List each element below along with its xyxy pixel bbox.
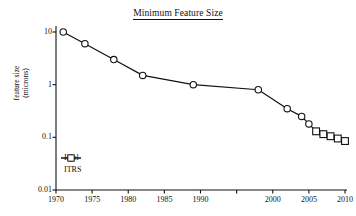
- x-tick-label: 1990: [184, 196, 218, 204]
- data-point-itrs: [342, 138, 349, 145]
- legend-item-itrs: ITRS: [60, 164, 81, 176]
- y-tick-label: 10: [14, 28, 52, 36]
- x-tick-label: 2000: [256, 196, 290, 204]
- x-tick-label: 1985: [147, 196, 181, 204]
- chart-figure: Minimum Feature Size feature size(micron…: [0, 0, 356, 216]
- x-tick-label: 2010: [328, 196, 356, 204]
- x-tick-label: 1975: [75, 196, 109, 204]
- data-point-intel: [255, 87, 261, 93]
- data-point-itrs: [313, 128, 320, 135]
- data-point-itrs: [327, 133, 334, 140]
- data-point-intel: [82, 40, 88, 46]
- data-point-intel: [140, 72, 146, 78]
- chart-legend: Intel ITRS: [60, 152, 81, 176]
- legend-marker-square-icon: [60, 152, 82, 164]
- data-point-intel: [306, 121, 312, 127]
- x-tick-label: 1980: [111, 196, 145, 204]
- data-point-intel: [60, 29, 66, 35]
- data-point-intel: [111, 56, 117, 62]
- data-point-itrs: [320, 131, 327, 138]
- data-point-intel: [284, 105, 290, 111]
- y-tick-label: 0.01: [14, 186, 52, 194]
- data-line: [63, 32, 345, 141]
- y-tick-label: 0.1: [14, 133, 52, 141]
- data-point-intel: [190, 81, 196, 87]
- x-tick-label: 2005: [292, 196, 326, 204]
- data-point-intel: [298, 113, 304, 119]
- data-point-itrs: [334, 135, 341, 142]
- plot-area: [0, 0, 356, 216]
- legend-label-itrs: ITRS: [64, 164, 81, 176]
- x-tick-label: 1970: [39, 196, 73, 204]
- y-tick-label: 1: [14, 81, 52, 89]
